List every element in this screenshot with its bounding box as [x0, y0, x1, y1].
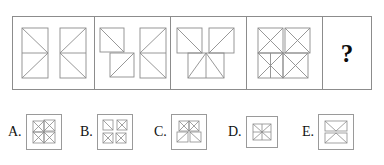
option-a-box[interactable] [26, 114, 62, 150]
matrix-strip: ? [12, 16, 372, 90]
matrix-figure-2 [98, 25, 168, 81]
option-c-box[interactable] [171, 114, 207, 150]
option-c-figure [175, 118, 203, 146]
option-b-figure [101, 118, 129, 146]
option-b-label: B. [80, 124, 93, 140]
option-d[interactable]: D. [228, 106, 278, 158]
question-mark: ? [341, 41, 354, 66]
option-d-figure [250, 120, 274, 144]
option-a-figure [30, 118, 58, 146]
option-b[interactable]: B. [80, 106, 133, 158]
puzzle-root: ? A. [0, 0, 384, 165]
options-row: A. [8, 106, 380, 158]
option-d-label: D. [228, 124, 242, 140]
option-c[interactable]: C. [154, 106, 207, 158]
matrix-figure-1 [18, 25, 90, 81]
matrix-cell-1[interactable] [13, 17, 95, 89]
option-d-box[interactable] [246, 116, 278, 148]
option-e[interactable]: E. [302, 106, 354, 158]
matrix-cell-4[interactable] [247, 17, 323, 89]
matrix-cell-2[interactable] [95, 17, 171, 89]
matrix-cell-answer[interactable]: ? [323, 17, 371, 89]
option-e-label: E. [302, 124, 314, 140]
option-a[interactable]: A. [8, 106, 62, 158]
matrix-cell-3[interactable] [171, 17, 247, 89]
matrix-figure-4 [250, 25, 320, 81]
option-e-figure [322, 118, 350, 146]
option-a-label: A. [8, 124, 22, 140]
option-c-label: C. [154, 124, 167, 140]
matrix-figure-3 [174, 25, 244, 81]
option-b-box[interactable] [97, 114, 133, 150]
option-e-box[interactable] [318, 114, 354, 150]
